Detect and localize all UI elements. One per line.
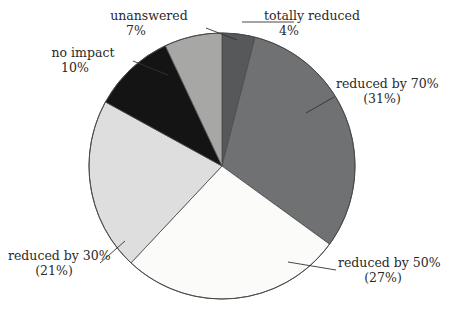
pie-label-unanswered: unanswered 7% [97,8,201,38]
pie-label-reduced-by-70: reduced by 70% (31%) [336,76,450,106]
pie-label-reduced-by-70-value: (31%) [336,91,450,106]
pie-label-reduced-by-50-name: reduced by 50% [338,255,450,270]
pie-label-reduced-by-50-value: (27%) [338,270,450,285]
pie-label-no-impact-name: no impact [36,45,130,60]
pie-label-no-impact: no impact 10% [36,45,130,75]
pie-label-reduced-by-50: reduced by 50% (27%) [338,255,450,285]
pie-chart-figure: unanswered 7% totally reduced 4% no impa… [0,0,450,318]
pie-label-unanswered-name: unanswered [97,8,201,23]
pie-label-totally-reduced: totally reduced 4% [246,8,378,38]
pie-label-reduced-by-70-name: reduced by 70% [336,76,450,91]
pie-label-totally-reduced-value: 4% [246,23,378,38]
pie-label-unanswered-value: 7% [97,23,201,38]
pie-label-no-impact-value: 10% [36,60,130,75]
pie-label-totally-reduced-name: totally reduced [246,8,378,23]
pie-label-reduced-by-30: reduced by 30% (21%) [8,248,124,278]
pie-label-reduced-by-30-name: reduced by 30% [8,248,124,263]
pie-label-reduced-by-30-value: (21%) [8,263,124,278]
